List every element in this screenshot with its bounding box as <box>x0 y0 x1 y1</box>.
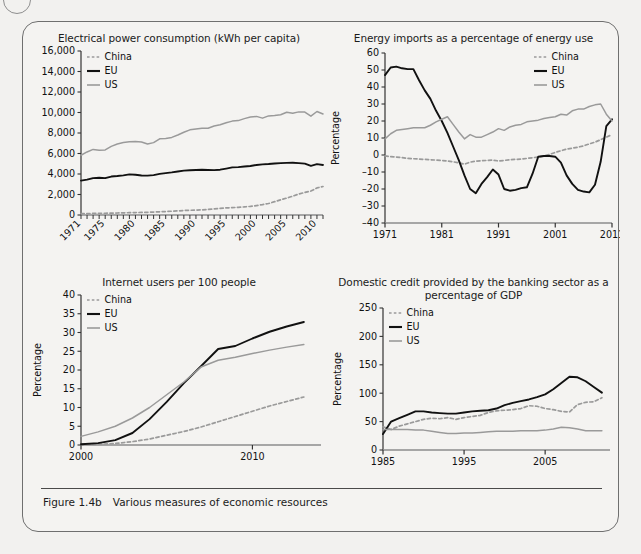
y-tick-label: 15 <box>63 383 75 394</box>
plot-area: 02,0004,0006,0008,00010,00012,00014,0001… <box>29 45 329 259</box>
x-tick-label: 2005 <box>263 218 288 243</box>
chart-title: Energy imports as a percentage of energy… <box>327 32 620 45</box>
charts-grid: Electrical power consumption (kWh per ca… <box>23 22 620 484</box>
series-line-china <box>383 398 602 430</box>
legend-label-china: China <box>105 51 132 62</box>
y-tick-label: 200 <box>359 331 377 342</box>
legend-label-china: China <box>105 294 132 305</box>
chart-title: Internet users per 100 people <box>29 276 329 289</box>
x-tick-label: 2011 <box>600 229 620 240</box>
legend-label-eu: EU <box>105 65 118 76</box>
series-line-china <box>81 397 304 445</box>
x-tick-label: 2000 <box>233 218 258 243</box>
legend-label-us: US <box>407 335 420 346</box>
series-line-eu <box>385 67 612 194</box>
plot-area: –40–30–20–100102030405060Percentage19711… <box>327 45 620 247</box>
y-tick-label: 10 <box>63 402 75 413</box>
y-tick-label: 35 <box>63 308 75 319</box>
page-corner-circle-ornament <box>3 0 31 14</box>
x-tick-label: 1980 <box>112 218 137 243</box>
series-line-china <box>81 187 323 214</box>
y-tick-label: 8,000 <box>48 127 75 138</box>
legend-label-us: US <box>105 79 118 90</box>
y-tick-label: –40 <box>362 217 379 228</box>
figure-frame: Electrical power consumption (kWh per ca… <box>22 21 619 532</box>
y-axis-title: Percentage <box>32 343 43 397</box>
caption-number: Figure 1.4b <box>43 496 102 508</box>
figure-page: Electrical power consumption (kWh per ca… <box>0 0 641 554</box>
y-tick-label: 30 <box>367 98 379 109</box>
y-tick-label: 25 <box>63 346 75 357</box>
x-tick-label: 1985 <box>371 456 395 467</box>
y-tick-label: 20 <box>367 115 379 126</box>
series-line-eu <box>81 163 323 181</box>
y-tick-label: 16,000 <box>41 45 75 56</box>
x-tick-label: 1981 <box>430 229 454 240</box>
legend-label-china: China <box>407 307 434 318</box>
x-tick-label: 2005 <box>533 456 557 467</box>
chart-domestic-credit: Domestic credit provided by the banking … <box>327 272 620 484</box>
y-tick-label: 150 <box>359 359 377 370</box>
x-tick-label: 1990 <box>172 218 197 243</box>
y-tick-label: 30 <box>63 327 75 338</box>
caption-text: Various measures of economic resources <box>113 496 328 508</box>
y-tick-label: 0 <box>371 444 377 455</box>
x-tick-label: 1985 <box>142 218 167 243</box>
y-tick-label: –30 <box>362 200 379 211</box>
y-tick-label: 40 <box>63 289 75 300</box>
y-tick-label: 6,000 <box>48 148 75 159</box>
series-line-us <box>383 427 602 433</box>
y-tick-label: 2,000 <box>48 189 75 200</box>
chart-title: Domestic credit provided by the banking … <box>327 276 620 302</box>
y-tick-label: 40 <box>367 81 379 92</box>
chart-electrical-power-consumption: Electrical power consumption (kWh per ca… <box>29 28 329 276</box>
y-tick-label: 250 <box>359 302 377 313</box>
legend-label-eu: EU <box>552 65 565 76</box>
y-tick-label: 4,000 <box>48 168 75 179</box>
caption-divider <box>41 488 602 489</box>
y-tick-label: 14,000 <box>41 66 75 77</box>
y-tick-label: 50 <box>365 416 377 427</box>
y-tick-label: 0 <box>69 439 75 450</box>
y-tick-label: 5 <box>69 421 75 432</box>
y-tick-label: –10 <box>362 166 379 177</box>
x-tick-label: 1971 <box>57 218 82 243</box>
legend-label-us: US <box>552 79 565 90</box>
series-line-us <box>385 104 612 139</box>
series-line-china <box>385 135 612 165</box>
y-tick-label: 60 <box>367 47 379 58</box>
y-tick-label: –20 <box>362 183 379 194</box>
y-tick-label: 12,000 <box>41 86 75 97</box>
x-tick-label: 2010 <box>240 451 264 462</box>
y-axis-title: Percentage <box>330 111 341 165</box>
series-line-eu <box>383 377 602 434</box>
y-tick-label: 100 <box>359 388 377 399</box>
legend-label-us: US <box>105 322 118 333</box>
x-tick-label: 2010 <box>293 218 318 243</box>
x-tick-label: 1995 <box>203 218 228 243</box>
series-line-us <box>81 111 323 155</box>
x-tick-label: 1975 <box>82 218 107 243</box>
y-tick-label: 0 <box>373 149 379 160</box>
figure-caption: Figure 1.4bVarious measures of economic … <box>43 496 603 508</box>
chart-title: Electrical power consumption (kWh per ca… <box>29 32 329 45</box>
x-tick-label: 1971 <box>373 229 397 240</box>
x-tick-label: 1991 <box>486 229 510 240</box>
plot-area: 0510152025303540Percentage20002010ChinaE… <box>29 289 329 469</box>
legend-label-eu: EU <box>407 321 420 332</box>
x-tick-label: 1995 <box>452 456 476 467</box>
legend-label-eu: EU <box>105 308 118 319</box>
y-tick-label: 50 <box>367 64 379 75</box>
y-axis-title: Percentage <box>332 352 343 406</box>
y-tick-label: 10 <box>367 132 379 143</box>
x-tick-label: 2001 <box>543 229 567 240</box>
legend-label-china: China <box>552 51 579 62</box>
series-line-us <box>81 345 304 437</box>
chart-internet-users: Internet users per 100 people 0510152025… <box>29 272 329 484</box>
x-tick-label: 2000 <box>69 451 93 462</box>
y-tick-label: 10,000 <box>41 107 75 118</box>
plot-area: 050100150200250Percentage198519952005Chi… <box>327 302 620 474</box>
y-tick-label: 20 <box>63 364 75 375</box>
chart-energy-imports: Energy imports as a percentage of energy… <box>327 28 620 276</box>
